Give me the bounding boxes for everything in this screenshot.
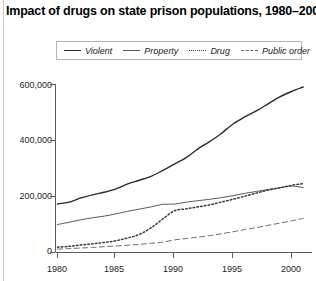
plot-area: 600,000 400,000 200,000 0 1980 1985 1990… bbox=[0, 62, 316, 281]
page-title: Impact of drugs on state prison populati… bbox=[6, 4, 312, 19]
chart-page: Impact of drugs on state prison populati… bbox=[0, 0, 316, 281]
public-order-line-swatch bbox=[241, 47, 258, 54]
series-line-public-order bbox=[58, 218, 304, 249]
series-line-drug bbox=[58, 184, 304, 248]
legend-label-property: Property bbox=[144, 46, 178, 56]
chart-legend: Violent Property Drug Public order bbox=[56, 41, 302, 60]
legend-label-public-order: Public order bbox=[262, 46, 310, 56]
line-chart-svg bbox=[0, 62, 316, 281]
series-line-property bbox=[58, 186, 304, 224]
property-line-swatch bbox=[123, 47, 140, 54]
violent-line-swatch bbox=[64, 47, 81, 54]
legend-label-violent: Violent bbox=[85, 46, 112, 56]
drug-line-swatch bbox=[189, 47, 206, 54]
legend-item-drug[interactable]: Drug bbox=[189, 46, 230, 56]
y-axis-ticks bbox=[50, 85, 55, 253]
legend-label-drug: Drug bbox=[210, 46, 230, 56]
legend-item-public-order[interactable]: Public order bbox=[241, 46, 310, 56]
legend-item-property[interactable]: Property bbox=[123, 46, 178, 56]
legend-item-violent[interactable]: Violent bbox=[64, 46, 112, 56]
series-line-violent bbox=[58, 87, 304, 204]
legend-row: Violent Property Drug Public order bbox=[57, 42, 301, 59]
